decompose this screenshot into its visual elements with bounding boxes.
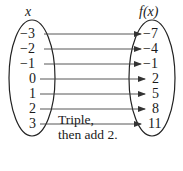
range-value: −1 <box>143 57 158 71</box>
domain-value: 1 <box>29 87 36 101</box>
domain-header: x <box>25 5 31 19</box>
range-value: 8 <box>152 102 159 116</box>
rule-caption: Triple, then add 2. <box>58 112 118 142</box>
mapping-arrows <box>40 34 145 124</box>
domain-value: 3 <box>29 117 36 131</box>
range-header: f(x) <box>139 5 158 19</box>
domain-value: −1 <box>20 57 35 71</box>
domain-value: 0 <box>29 72 36 86</box>
range-value: 2 <box>152 72 159 86</box>
range-value: −7 <box>143 27 158 41</box>
rule-caption-line1: Triple, <box>58 112 118 127</box>
range-value: 11 <box>148 117 161 131</box>
range-value: 5 <box>152 87 159 101</box>
range-value: −4 <box>143 42 158 56</box>
domain-value: −2 <box>20 42 35 56</box>
domain-value: −3 <box>20 27 35 41</box>
rule-caption-line2: then add 2. <box>58 127 118 142</box>
domain-value: 2 <box>29 102 36 116</box>
